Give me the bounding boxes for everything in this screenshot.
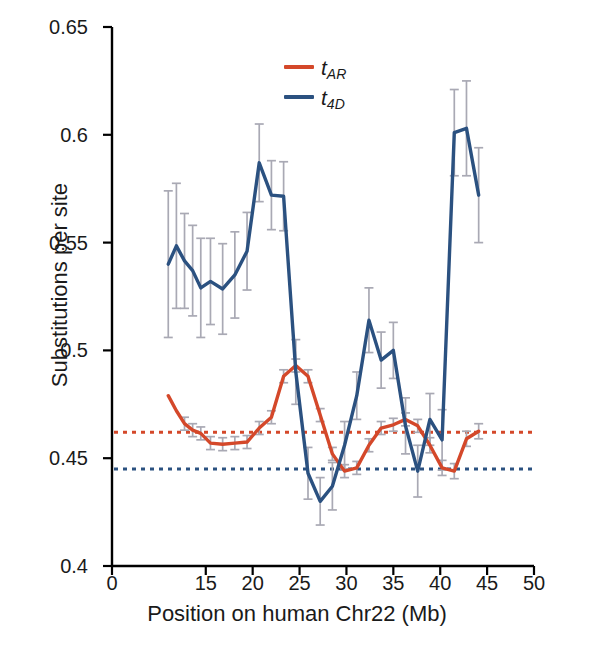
plot-area bbox=[0, 0, 594, 661]
t_AR-line bbox=[168, 365, 478, 471]
chart-figure: Substitutions per site Position on human… bbox=[0, 0, 594, 661]
axis-spines bbox=[112, 27, 534, 566]
